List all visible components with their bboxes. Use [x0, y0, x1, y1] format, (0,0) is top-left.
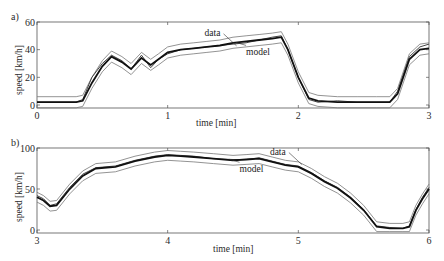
- annotation-leader: [289, 153, 302, 165]
- x-tick-label: 1: [165, 110, 170, 121]
- panel-a-ticks: 01230204060: [25, 17, 432, 122]
- y-tick-label: 60: [25, 17, 35, 28]
- figure: a) 01230204060 time [min] speed [km/h] d…: [0, 0, 444, 261]
- annotation-model: model: [246, 47, 270, 57]
- y-tick-label: 0: [30, 225, 35, 236]
- x-tick-label: 3: [35, 235, 40, 246]
- panel-a-xlabel: time [min]: [196, 118, 236, 128]
- panel-b-label: b): [11, 137, 19, 149]
- x-tick-label: 4: [165, 235, 170, 246]
- x-tick-label: 3: [427, 110, 432, 121]
- x-tick-label: 6: [427, 235, 432, 246]
- model-lower-bound: [37, 160, 429, 231]
- panel-b-plot-area: [37, 151, 429, 232]
- y-tick-label: 50: [25, 184, 35, 195]
- annotation-data: data: [205, 28, 222, 38]
- y-tick-label: 40: [25, 44, 35, 55]
- panel-b-ticks: 3456050100: [20, 143, 432, 247]
- annotation-data: data: [270, 147, 287, 157]
- panel-b-ylabel: speed [km/h]: [14, 172, 24, 222]
- x-tick-label: 0: [35, 110, 40, 121]
- panel-a: a) 01230204060 time [min] speed [km/h] d…: [11, 11, 432, 128]
- y-tick-label: 0: [30, 100, 35, 111]
- y-tick-label: 100: [20, 143, 35, 154]
- annotation-model: model: [240, 164, 264, 174]
- model-line: [37, 37, 429, 102]
- x-tick-label: 2: [296, 110, 301, 121]
- panel-b-xlabel: time [min]: [213, 244, 253, 254]
- model-line: [37, 155, 429, 228]
- panel-a-plot-area: [37, 32, 429, 108]
- data-line: [37, 36, 429, 102]
- panel-a-axes-frame: [37, 22, 429, 108]
- panel-a-ylabel: speed [km/h]: [14, 45, 24, 95]
- panel-b: b) 3456050100 time [min] speed [km/h] da…: [11, 137, 432, 254]
- model-upper-bound: [37, 151, 429, 224]
- panel-a-annotations: datamodel: [205, 28, 271, 58]
- panel-a-label: a): [11, 11, 19, 23]
- y-tick-label: 20: [25, 72, 35, 83]
- model-upper-bound: [37, 32, 429, 97]
- x-tick-label: 5: [296, 235, 301, 246]
